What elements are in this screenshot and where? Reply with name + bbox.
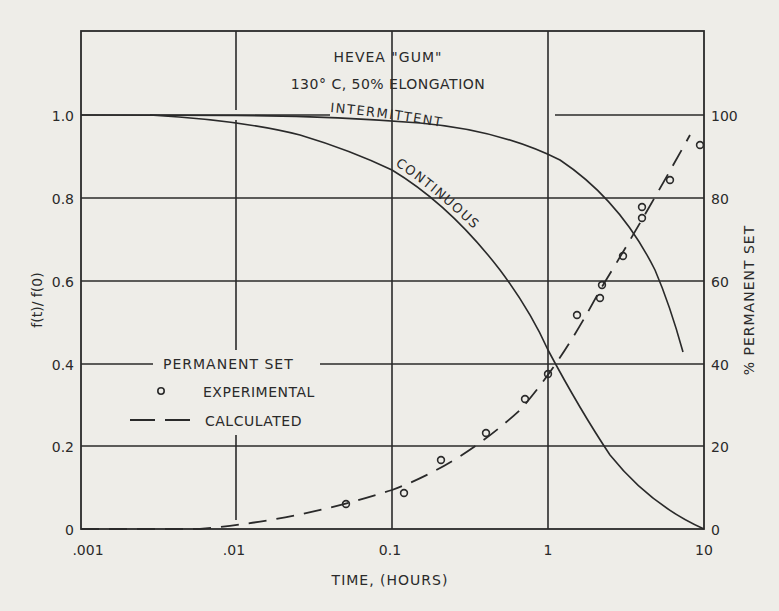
calculated-dashed-curve: [81, 135, 690, 529]
svg-text:0.8: 0.8: [52, 191, 74, 207]
y-axis-left-label: f(t)/ f(0): [29, 272, 45, 327]
chart-title: HEVEA "GUM": [334, 49, 443, 65]
y-axis-right-label: % PERMANENT SET: [741, 225, 757, 376]
y-axis-left-ticks: 0 0.2 0.4 0.6 0.8 1.0: [52, 108, 74, 538]
intermittent-curve: [81, 115, 683, 352]
legend-experimental: EXPERIMENTAL: [203, 384, 315, 400]
legend-calculated: CALCULATED: [205, 413, 302, 429]
svg-text:0: 0: [65, 522, 74, 538]
y-axis-right-ticks: 0 20 40 60 80 100: [711, 108, 738, 538]
svg-text:100: 100: [711, 108, 738, 124]
intermittent-label: INTERMITTENT: [330, 100, 445, 130]
grid: [81, 31, 704, 529]
svg-text:60: 60: [711, 274, 729, 290]
svg-text:0.4: 0.4: [52, 357, 74, 373]
svg-text:.01: .01: [223, 542, 245, 558]
svg-text:0.1: 0.1: [379, 542, 401, 558]
svg-text:80: 80: [711, 191, 729, 207]
svg-text:40: 40: [711, 357, 729, 373]
legend: PERMANENT SET EXPERIMENTAL CALCULATED: [130, 356, 315, 429]
svg-text:20: 20: [711, 439, 729, 455]
experimental-marker-icon: [158, 388, 164, 394]
x-axis-ticks: .001 .01 0.1 1 10: [72, 542, 713, 558]
svg-text:10: 10: [695, 542, 713, 558]
svg-text:.001: .001: [72, 542, 103, 558]
svg-text:1: 1: [544, 542, 553, 558]
continuous-label: CONTINUOUS: [393, 155, 483, 232]
svg-text:0.6: 0.6: [52, 274, 74, 290]
chart-subtitle: 130° C, 50% ELONGATION: [291, 76, 486, 92]
chart: HEVEA "GUM" 130° C, 50% ELONGATION INTER…: [0, 0, 779, 611]
svg-text:0.2: 0.2: [52, 439, 74, 455]
x-axis-label: TIME, (HOURS): [331, 572, 449, 588]
legend-title: PERMANENT SET: [163, 356, 294, 372]
svg-text:0: 0: [711, 522, 720, 538]
experimental-points: [343, 142, 704, 508]
svg-text:1.0: 1.0: [52, 108, 74, 124]
